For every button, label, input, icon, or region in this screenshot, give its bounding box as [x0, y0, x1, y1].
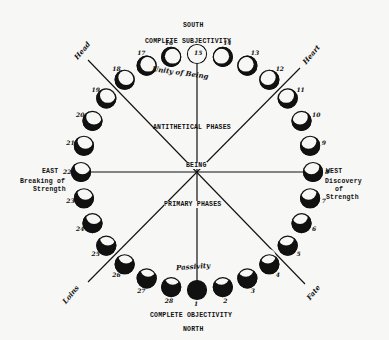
phase-number-5: 5: [296, 250, 300, 257]
moon-phase-2: [213, 270, 232, 297]
phase-number-3: 3: [251, 287, 255, 294]
phase-number-13: 13: [251, 49, 259, 56]
complete-subjectivity-label: COMPLETE SUBJECTIVITY: [145, 38, 231, 45]
phase-number-17: 17: [137, 49, 145, 56]
moon-phase-11: [278, 88, 297, 108]
primary-phases-label: PRIMARY PHASES: [164, 201, 221, 208]
phase-number-10: 10: [312, 111, 320, 118]
west-line1: Discovery: [325, 178, 362, 185]
moon-phase-23: [74, 185, 93, 208]
phase-number-11: 11: [296, 86, 304, 93]
phase-number-28: 28: [165, 297, 173, 304]
center-being-label: BEING: [186, 162, 207, 169]
east-line2: Strength: [33, 186, 66, 193]
phase-number-9: 9: [322, 139, 326, 146]
moon-phase-18: [115, 70, 134, 89]
moon-phase-12: [260, 70, 279, 89]
moon-phase-6: [292, 209, 311, 233]
phase-number-20: 20: [76, 111, 84, 118]
phase-number-26: 26: [112, 271, 120, 278]
phase-number-7: 7: [322, 197, 326, 204]
east-line1: Breaking of: [20, 178, 65, 185]
complete-objectivity-label: COMPLETE OBJECTIVITY: [150, 312, 232, 319]
moon-phase-4: [260, 249, 279, 274]
phase-number-18: 18: [112, 65, 120, 72]
west-line3: Strength: [326, 194, 359, 201]
phase-number-25: 25: [92, 250, 100, 257]
phase-number-2: 2: [223, 297, 227, 304]
phase-number-14: 14: [223, 39, 231, 46]
moon-phase-5: [278, 231, 297, 255]
moon-phase-9: [301, 134, 320, 155]
phase-number-8: 8: [325, 168, 329, 175]
phase-number-24: 24: [76, 225, 84, 232]
phase-number-1: 1: [194, 300, 198, 307]
moon-phase-21: [74, 134, 93, 155]
moon-phase-24: [83, 209, 102, 233]
phase-number-6: 6: [312, 225, 316, 232]
moon-phase-20: [83, 110, 102, 131]
antithetical-phases-label: ANTITHETICAL PHASES: [153, 124, 231, 131]
phase-number-21: 21: [66, 139, 74, 146]
phase-number-23: 23: [66, 197, 74, 204]
great-wheel-diagram: SOUTH COMPLETE SUBJECTIVITY Unity of Bei…: [0, 0, 389, 340]
moon-phase-16: [162, 47, 181, 66]
moon-phase-8: [304, 159, 323, 181]
phase-number-22: 22: [63, 168, 71, 175]
moon-phase-3: [238, 262, 257, 288]
east-label: EAST: [42, 168, 58, 175]
north-label: NORTH: [183, 326, 204, 333]
phase-number-27: 27: [137, 287, 145, 294]
moon-phase-14: [213, 47, 232, 66]
phase-number-19: 19: [92, 86, 100, 93]
moon-phase-7: [301, 185, 320, 208]
phase-number-12: 12: [276, 65, 284, 72]
moon-phase-27: [137, 262, 156, 288]
moon-phase-28: [162, 270, 181, 297]
west-line2: of: [335, 186, 343, 193]
phase-number-15: 15: [194, 49, 202, 56]
moon-phase-1: [188, 281, 207, 300]
moon-phase-13: [238, 56, 257, 75]
phase-number-16: 16: [165, 39, 173, 46]
moon-phase-22: [72, 159, 91, 181]
south-label: SOUTH: [183, 22, 204, 29]
phase-number-4: 4: [276, 271, 280, 278]
moon-phase-10: [292, 110, 311, 131]
